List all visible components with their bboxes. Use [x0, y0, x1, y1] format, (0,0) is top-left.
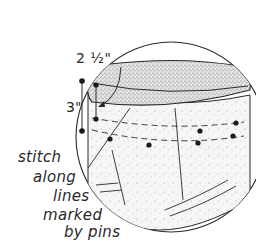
detail-illustration [0, 0, 256, 247]
dimension-label-3: 3" [66, 100, 81, 114]
pin-marker [230, 133, 235, 138]
diagram-figure: 2 ½" 3" stitch along lines marked by pin… [0, 0, 256, 247]
pin-marker [107, 136, 112, 141]
cylinder-body [88, 92, 250, 230]
pin-marker [233, 120, 238, 125]
caption-line: stitch [18, 150, 61, 165]
caption-line: marked [43, 208, 102, 223]
pin-marker [79, 128, 85, 134]
caption-line: by pins [64, 225, 120, 240]
dimension-label-2half: 2 ½" [76, 51, 111, 65]
caption-line: lines [53, 189, 89, 204]
pin-marker [195, 140, 200, 145]
pin-marker [79, 78, 85, 84]
pin-marker [197, 128, 202, 133]
pin-marker [93, 82, 98, 87]
caption-line: along [33, 170, 76, 185]
pin-marker [146, 142, 151, 147]
